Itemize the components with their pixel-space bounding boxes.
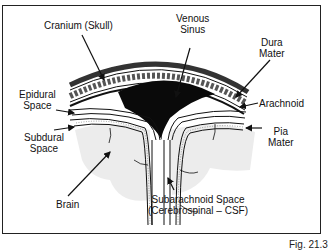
figure-caption: Fig. 21.3 <box>289 239 328 250</box>
label-subdural-line1: Subdural <box>24 132 64 143</box>
label-subarachnoid-line1: Subarachnoid Space <box>148 194 248 205</box>
brain-tissue <box>75 124 255 201</box>
label-venous-sinus: Venous Sinus <box>176 13 209 35</box>
label-cranium: Cranium (Skull) <box>44 20 113 31</box>
label-epidural-space: Epidural Space <box>19 89 56 111</box>
label-pia-line2: Mater <box>268 137 294 148</box>
label-pia-line1: Pia <box>268 126 294 137</box>
label-dura-line2: Mater <box>259 48 285 59</box>
label-arachnoid: Arachnoid <box>259 98 304 109</box>
label-brain: Brain <box>56 199 79 210</box>
label-venous-line2: Sinus <box>176 24 209 35</box>
label-dura-line1: Dura <box>259 37 285 48</box>
label-venous-line1: Venous <box>176 13 209 24</box>
label-pia-mater: Pia Mater <box>268 126 294 148</box>
label-subarachnoid-space: Subarachnoid Space (Cerebrospinal – CSF) <box>148 194 248 216</box>
label-subdural-line2: Space <box>24 143 64 154</box>
label-epidural-line2: Space <box>19 100 56 111</box>
label-dura-mater: Dura Mater <box>259 37 285 59</box>
label-subarachnoid-line2: (Cerebrospinal – CSF) <box>148 205 248 216</box>
label-subdural-space: Subdural Space <box>24 132 64 154</box>
label-epidural-line1: Epidural <box>19 89 56 100</box>
